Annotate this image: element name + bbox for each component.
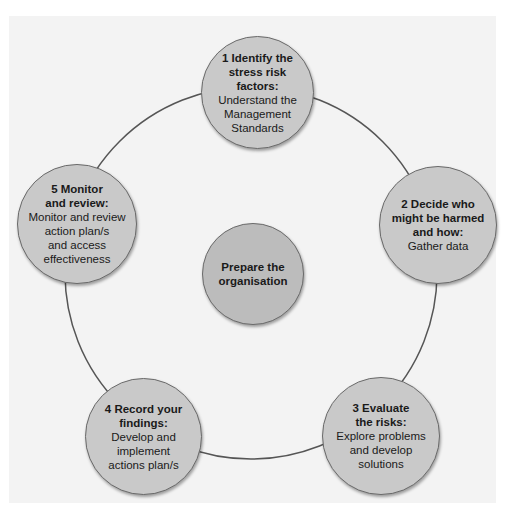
- step-5-monitor-review: 5 Monitor and review: Monitor and review…: [17, 164, 137, 284]
- step-1-desc: Understand the Management Standards: [218, 93, 297, 135]
- step-4-record-findings: 4 Record your findings: Develop and impl…: [85, 378, 202, 495]
- step-4-desc: Develop and implement actions plan/s: [105, 430, 182, 472]
- step-1-title: 1 Identify the stress risk factors:: [218, 51, 297, 93]
- center-prepare-organisation: Prepare the organisation: [202, 223, 304, 325]
- step-5-desc: Monitor and review action plan/s and acc…: [28, 210, 125, 266]
- step-3-desc: Explore problems and develop solutions: [336, 429, 425, 471]
- step-2-decide-who-harmed: 2 Decide who might be harmed and how: Ga…: [379, 166, 497, 284]
- step-4-title: 4 Record your findings:: [105, 402, 182, 430]
- step-5-title: 5 Monitor and review:: [28, 182, 125, 210]
- step-3-evaluate-risks: 3 Evaluate the risks: Explore problems a…: [322, 377, 440, 495]
- step-1-identify-risk-factors: 1 Identify the stress risk factors: Unde…: [201, 36, 314, 149]
- step-2-desc: Gather data: [392, 239, 485, 253]
- step-2-title: 2 Decide who might be harmed and how:: [392, 197, 485, 239]
- step-3-title: 3 Evaluate the risks:: [336, 401, 425, 429]
- center-title: Prepare the organisation: [218, 260, 287, 288]
